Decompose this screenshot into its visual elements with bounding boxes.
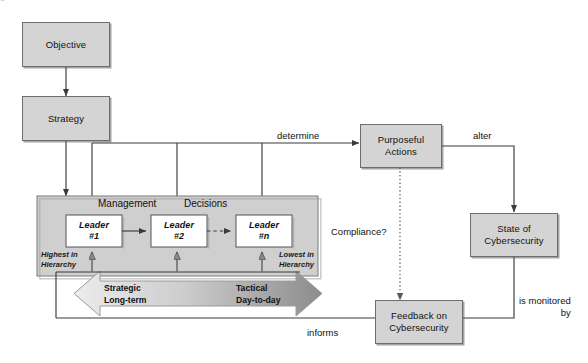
edge-label-alter: alter — [473, 130, 491, 142]
diagram-canvas: e ﻿ — [0, 0, 588, 363]
edge-label-informs: informs — [307, 327, 338, 339]
node-leader-n[interactable]: Leader#n — [236, 215, 292, 247]
node-feedback-on-cybersecurity-label: Feedback onCybersecurity — [389, 310, 448, 333]
edge-label-compliance: Compliance? — [331, 226, 386, 238]
label-tactical-day-to-day: TacticalDay-to-day — [236, 283, 280, 306]
node-strategy[interactable]: Strategy — [22, 96, 110, 141]
node-leader-2[interactable]: Leader#2 — [151, 215, 207, 247]
node-objective[interactable]: Objective — [22, 22, 110, 67]
edge-label-is-monitored-by: is monitoredby — [519, 295, 571, 319]
node-strategy-label: Strategy — [48, 113, 84, 125]
label-highest-in-hierarchy: Highest inHierarchy — [41, 250, 78, 270]
node-leader-2-label: Leader#2 — [164, 220, 194, 242]
node-feedback-on-cybersecurity[interactable]: Feedback onCybersecurity — [375, 300, 463, 344]
node-purposeful-actions-label: PurposefulActions — [378, 134, 424, 157]
node-state-of-cybersecurity-label: State ofCybersecurity — [484, 223, 543, 246]
node-leader-1[interactable]: Leader#1 — [66, 215, 122, 247]
label-strategic-long-term: StrategicLong-term — [104, 283, 147, 306]
node-purposeful-actions[interactable]: PurposefulActions — [360, 124, 442, 168]
node-leader-1-label: Leader#1 — [79, 220, 109, 242]
panel-label-management: Management — [98, 198, 156, 209]
node-objective-label: Objective — [46, 39, 87, 51]
node-leader-n-label: Leader#n — [249, 220, 279, 242]
label-lowest-in-hierarchy: Lowest inHierarchy — [262, 250, 314, 270]
edge-label-determine: determine — [277, 130, 319, 142]
panel-label-decisions: Decisions — [184, 198, 227, 209]
node-state-of-cybersecurity[interactable]: State ofCybersecurity — [470, 213, 558, 257]
